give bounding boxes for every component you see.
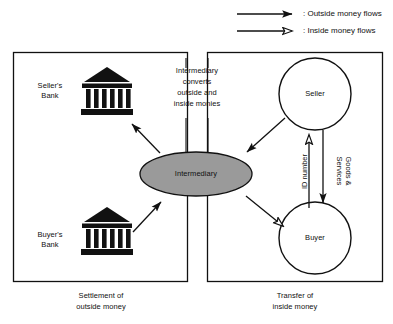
legend-label-outside-money-flows: : Outside money flows	[303, 9, 382, 19]
edge-seller-to-intermediary	[247, 118, 285, 152]
node-label-buyers-bank: Buyer's Bank	[20, 230, 80, 250]
node-label-buyer: Buyer	[285, 233, 345, 243]
sellers-bank-icon	[81, 67, 133, 115]
panel-caption-right: Transfer of inside money	[254, 290, 336, 312]
node-label-intermediary: Intermediary	[156, 169, 236, 179]
panel-caption-left: Settlement of outside money	[60, 290, 142, 312]
node-label-sellers-bank: Seller's Bank	[20, 81, 80, 101]
edge-intermediary-to-sellers-bank	[132, 124, 160, 153]
edge-label-goods-services: Goods & Services	[335, 133, 353, 209]
edge-buyers-bank-to-intermediary	[133, 202, 161, 232]
buyers-bank-icon	[81, 207, 133, 255]
diagram-figure: : Outside money flows : Inside money flo…	[0, 0, 393, 324]
node-label-seller: Seller	[285, 89, 345, 99]
annotation-intermediary-note: Intermediary converts outside and inside…	[157, 65, 237, 109]
edge-intermediary-to-buyer	[246, 196, 283, 226]
legend-label-inside-money-flows: : Inside money flows	[303, 26, 375, 36]
edge-label-id-number: ID number	[300, 134, 309, 210]
